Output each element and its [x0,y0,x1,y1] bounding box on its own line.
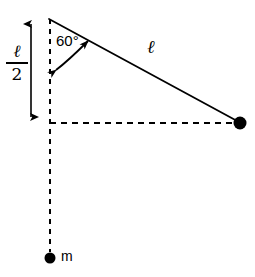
half-length-denominator: 2 [6,66,28,83]
figure-canvas: ℓ 2 60° ℓ m [0,0,255,277]
angle-label: 60° [56,33,79,48]
bob-point-marker [234,117,247,130]
mass-label: m [61,249,73,263]
length-label: ℓ [147,38,155,56]
half-length-label: ℓ 2 [6,43,28,83]
diagram-svg [0,0,255,277]
half-length-numerator: ℓ [6,43,28,61]
mass-point-marker [45,253,56,264]
